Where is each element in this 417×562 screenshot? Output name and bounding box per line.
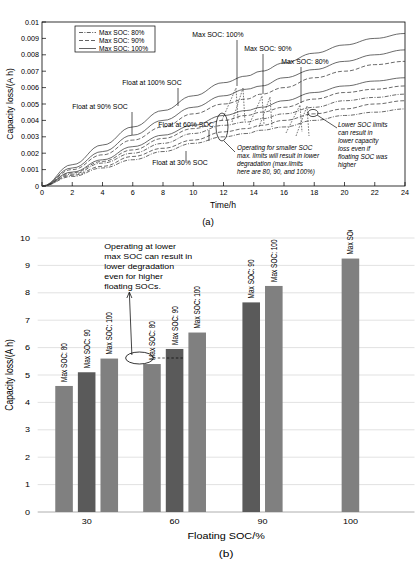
annotation-line: Operating for smaller SOC (237, 144, 313, 152)
annotation-lower-soc-block: Lower SOC limits can result in lower cap… (338, 121, 388, 169)
annotation-line: higher (338, 161, 357, 169)
panel-a-line-chart: 0 0.001 0.002 0.003 0.004 0.005 0.006 0.… (0, 0, 417, 230)
panel-a-caption: (a) (202, 216, 214, 227)
y-tick-label: 6 (25, 344, 31, 352)
panel-b-x-ticks: 306090100 (82, 518, 359, 526)
annotation-float-90: Float at 90% SOC (72, 103, 128, 110)
annotation-ellipse-right (308, 109, 318, 116)
y-tick-label: 0.003 (21, 132, 39, 141)
y-tick-label: 10 (20, 234, 31, 242)
annotation-smaller-soc-block: Operating for smaller SOC max. limits wi… (237, 144, 320, 176)
panel-a-x-axis-label: Time/h (210, 200, 236, 210)
bar-value-label: Max SOC: 90 (82, 329, 92, 368)
x-tick-label: 60 (170, 518, 181, 526)
annotation-line: floating SOC was (338, 153, 388, 161)
annotation-max-soc-100: Max SOC: 100% (192, 31, 243, 38)
y-tick-label: 0.004 (21, 116, 39, 125)
bar (188, 333, 206, 512)
x-tick-label: 22 (371, 188, 379, 197)
bar (342, 259, 360, 512)
x-tick-label: 10 (189, 188, 197, 197)
panel-a-y-axis-label: Capacity loss/(A h) (5, 68, 15, 140)
x-tick-label: 18 (310, 188, 318, 197)
bar (166, 349, 184, 512)
x-tick-label: 8 (161, 188, 165, 197)
bar-value-label: Max SOC: 80 (59, 343, 69, 382)
figure-root: 0 0.001 0.002 0.003 0.004 0.005 0.006 0.… (0, 0, 417, 562)
annotation-line: lower capacity (338, 137, 379, 145)
x-tick-label: 16 (280, 188, 288, 197)
y-tick-label: 0.006 (21, 83, 39, 92)
annotation-line: here are 80, 90, and 100%) (237, 168, 315, 176)
bar-value-label: Max SOC: 100 (105, 312, 115, 355)
panel-a-svg: 0 0.001 0.002 0.003 0.004 0.005 0.006 0.… (0, 0, 417, 230)
annotation-line: degradation (max.limits (237, 160, 304, 168)
x-tick-label: 12 (220, 188, 228, 197)
y-tick-label: 4 (25, 399, 31, 407)
y-tick-label: 0.002 (21, 149, 39, 158)
y-tick-label: 2 (25, 454, 31, 462)
annotation-float-100: Float at 100% SOC (122, 79, 181, 86)
legend-label: Max SOC: 90% (99, 37, 145, 44)
x-tick-label: 100 (343, 518, 359, 526)
x-tick-label: 2 (70, 188, 74, 197)
y-tick-label: 8 (25, 289, 31, 297)
bar (242, 302, 260, 512)
annotation-line: Operating at lower (104, 243, 176, 251)
annotation-line: even for higher (104, 273, 163, 281)
annotation-line: lower degradation (104, 263, 174, 271)
y-tick-label: 3 (25, 426, 31, 434)
legend-label: Max SOC: 80% (99, 29, 145, 36)
x-tick-label: 14 (250, 188, 258, 197)
panel-b-bar-chart: 012345678910 Max SOC: 80Max SOC: 90Max S… (0, 230, 417, 562)
annotation-line: max SOC can result in (104, 253, 192, 261)
y-tick-label: 0.001 (21, 165, 39, 174)
annotation-line: max. limits will result in lower (237, 152, 320, 159)
bar (78, 372, 96, 512)
y-tick-label: 1 (25, 481, 31, 489)
panel-a-legend: Max SOC: 80% Max SOC: 90% Max SOC: 100% (75, 26, 155, 52)
bar-value-label: Max SOC: 90 (246, 259, 256, 298)
annotation-max-soc-80: Max SOC: 80% (281, 58, 328, 65)
legend-label: Max SOC: 100% (99, 45, 148, 52)
annotation-float-30: Float at 30% SOC (152, 159, 208, 166)
y-tick-label: 5 (25, 371, 31, 379)
x-tick-label: 90 (257, 518, 268, 526)
x-tick-label: 20 (341, 188, 349, 197)
x-tick-label: 0 (40, 188, 44, 197)
x-tick-label: 24 (401, 188, 409, 197)
bar-value-label: Max SOC: 100 (269, 239, 279, 282)
y-tick-label: 0.005 (21, 100, 39, 109)
y-tick-label: 9 (25, 262, 31, 270)
annotation-line: can result in (338, 129, 373, 136)
panel-b-bar-group (55, 259, 359, 512)
bar (100, 359, 118, 512)
annotation-max-soc-90: Max SOC: 90% (244, 45, 291, 52)
annotation-float-60: Float at 60% SOC (158, 121, 214, 128)
panel-a-x-ticks: 0 2 4 6 8 10 12 14 16 18 20 22 24 (40, 182, 409, 197)
panel-b-svg: 012345678910 Max SOC: 80Max SOC: 90Max S… (0, 230, 417, 562)
x-tick-label: 30 (82, 518, 93, 526)
y-tick-label: 0.007 (21, 67, 39, 76)
y-tick-label: 0.008 (21, 50, 39, 59)
y-tick-label: 0.01 (25, 18, 39, 27)
panel-b-caption: (b) (219, 548, 234, 559)
bar-value-label: Max SOC: 100 (346, 230, 356, 255)
bar-value-label: Max SOC: 90 (170, 306, 180, 345)
bar (143, 364, 161, 512)
y-tick-label: 0 (35, 182, 39, 191)
bar-value-label: Max SOC: 100 (192, 286, 202, 329)
bar-value-label: Max SOC: 80 (147, 321, 157, 360)
x-tick-label: 4 (101, 188, 105, 197)
panel-b-x-axis-label: Floating SOC/% (187, 531, 265, 541)
annotation-line: Lower SOC limits (338, 121, 388, 128)
panel-b-y-axis-label: Capacity loss/(A h) (3, 339, 15, 411)
bar (265, 286, 283, 512)
y-tick-label: 7 (25, 317, 31, 325)
annotation-line: loss even if (338, 145, 371, 152)
annotation-line: floating SOCs. (104, 283, 161, 291)
x-tick-label: 6 (131, 188, 135, 197)
y-tick-label: 0 (25, 508, 31, 516)
panel-b-y-ticks: 012345678910 (20, 234, 31, 516)
bar (55, 386, 73, 512)
